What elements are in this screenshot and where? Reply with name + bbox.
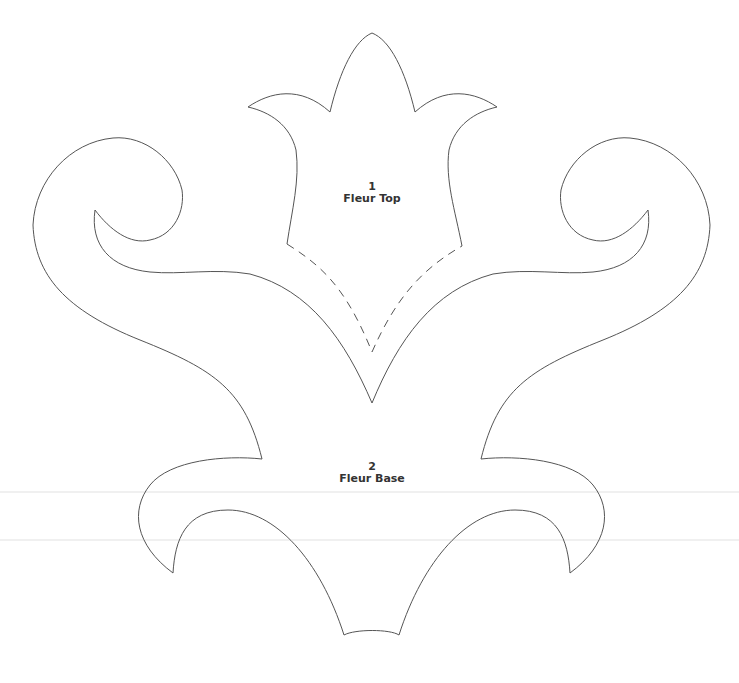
fleur-top-outline	[248, 33, 497, 246]
fleur-top-fold-line	[287, 244, 462, 352]
piece-label-fleur-top: 1 Fleur Top	[312, 181, 432, 205]
fleur-base-outline	[33, 138, 710, 635]
fleur-pattern	[0, 0, 739, 683]
piece-name: Fleur Base	[312, 473, 432, 485]
piece-label-fleur-base: 2 Fleur Base	[312, 461, 432, 485]
piece-name: Fleur Top	[312, 193, 432, 205]
